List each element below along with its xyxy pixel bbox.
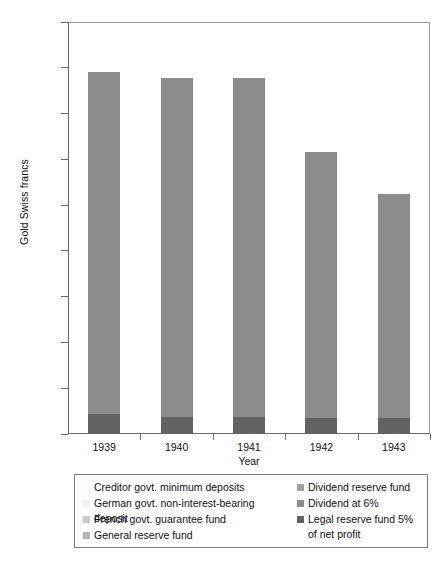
plot-area (68, 22, 430, 434)
bar-segment (378, 418, 410, 434)
bar-segment (305, 418, 337, 434)
y-axis-title: Gold Swiss francs (18, 132, 30, 272)
legend-item-label: Legal reserve fund 5% of net profit (308, 512, 413, 542)
legend-swatch-icon (83, 484, 90, 491)
y-axis-tick (61, 113, 68, 114)
y-axis-tick (61, 434, 68, 435)
legend-item-label: Creditor govt. minimum deposits (94, 480, 245, 495)
legend-swatch-icon (83, 532, 90, 539)
x-axis-tick (140, 434, 141, 440)
x-axis-tick (430, 434, 431, 440)
x-axis-tick-label: 1943 (358, 441, 430, 453)
legend-item-label: Dividend at 6% (308, 496, 379, 511)
legend-column-right: Dividend reserve fundDividend at 6%Legal… (297, 480, 423, 542)
legend-column-left: Creditor govt. minimum depositsGerman go… (83, 480, 291, 544)
legend-item[interactable]: Dividend at 6% (297, 496, 423, 512)
legend-item-label: French govt. guarantee fund (94, 512, 226, 527)
x-axis-tick (213, 434, 214, 440)
bar-segment (88, 72, 120, 414)
bar-segment (161, 417, 193, 434)
bar-segment (305, 152, 337, 417)
legend: Creditor govt. minimum depositsGerman go… (74, 474, 428, 548)
legend-item[interactable]: German govt. non-interest-bearing deposi… (83, 496, 291, 512)
legend-item-label: Dividend reserve fund (308, 480, 410, 495)
bar (305, 23, 337, 435)
x-axis-tick-label: 1941 (213, 441, 285, 453)
bar-segment (88, 414, 120, 434)
bar (378, 23, 410, 435)
x-axis-tick (358, 434, 359, 440)
bar-segment (233, 78, 265, 417)
bar (88, 23, 120, 435)
x-axis-title: Year (68, 455, 430, 467)
legend-swatch-icon (83, 500, 90, 507)
x-axis-tick-label: 1942 (285, 441, 357, 453)
x-axis-tick-label: 1940 (141, 441, 213, 453)
x-axis-tick (285, 434, 286, 440)
y-axis-tick (61, 388, 68, 389)
stacked-bar-chart: Gold Swiss francs 01,000,0002,000,0003,0… (0, 0, 448, 561)
legend-item[interactable]: Creditor govt. minimum deposits (83, 480, 291, 496)
legend-item[interactable]: General reserve fund (83, 528, 291, 544)
y-axis-tick (61, 205, 68, 206)
legend-item[interactable]: Dividend reserve fund (297, 480, 423, 496)
bar-segment (378, 194, 410, 418)
y-axis-tick (61, 159, 68, 160)
y-axis-tick (61, 342, 68, 343)
legend-swatch-icon (297, 500, 304, 507)
y-axis-tick (61, 250, 68, 251)
y-axis-tick (61, 67, 68, 68)
bar (233, 23, 265, 435)
y-axis-tick (61, 22, 68, 23)
legend-swatch-icon (297, 484, 304, 491)
x-axis-tick-label: 1939 (68, 441, 140, 453)
bar (161, 23, 193, 435)
legend-item[interactable]: Legal reserve fund 5% of net profit (297, 512, 423, 542)
y-axis-tick (61, 296, 68, 297)
legend-swatch-icon (297, 516, 304, 523)
legend-item-label: General reserve fund (94, 528, 193, 543)
bar-segment (161, 78, 193, 416)
bar-segment (233, 417, 265, 434)
legend-swatch-icon (83, 516, 90, 523)
